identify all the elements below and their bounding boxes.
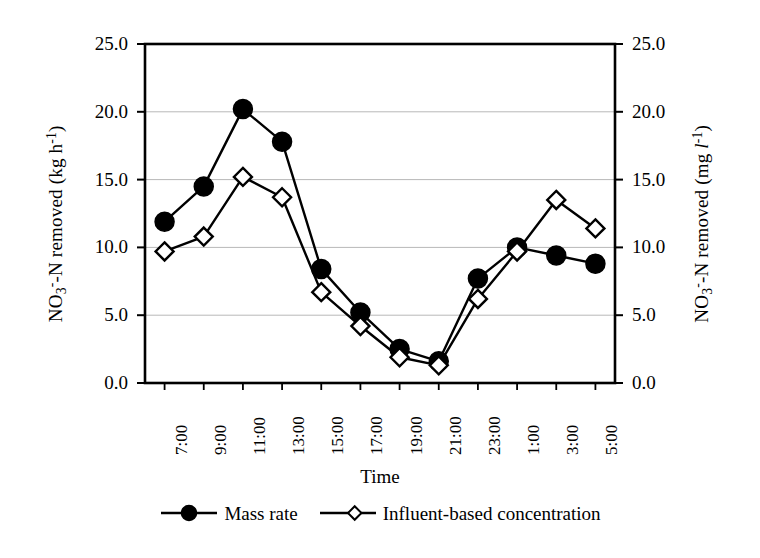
legend-item-mass-rate[interactable]: Mass rate	[159, 502, 297, 524]
x-axis-tick-label: 7:00	[173, 425, 190, 455]
data-point-marker-diamond	[547, 191, 565, 209]
x-axis-tick-label: 3:00	[564, 425, 581, 455]
series-lines	[165, 109, 596, 365]
data-point-marker-circle	[233, 100, 252, 119]
y-axis-left-tick-label: 10.0	[72, 237, 128, 256]
y-axis-right-tick-label: 5.0	[632, 305, 688, 324]
data-point-marker-circle	[547, 246, 566, 265]
x-axis-tick-label: 21:00	[447, 416, 464, 455]
y-axis-left-tick-label: 0.0	[72, 373, 128, 392]
x-axis-tick-label: 9:00	[212, 425, 229, 455]
legend-label-mass-rate: Mass rate	[224, 504, 297, 523]
x-axis-tick-label: 15:00	[329, 416, 346, 455]
filled-circle-icon	[159, 502, 219, 524]
y-axis-right-tick-label: 25.0	[632, 34, 688, 53]
data-point-marker-circle	[586, 254, 605, 273]
x-axis-tick-label: 17:00	[368, 416, 385, 455]
x-axis-tick-label: 11:00	[251, 417, 268, 455]
x-axis-tick-label: 13:00	[290, 416, 307, 455]
data-point-marker-circle	[312, 260, 331, 279]
data-point-marker-circle	[273, 132, 292, 151]
chart-legend: Mass rate Influent-based concentration	[0, 502, 760, 524]
open-diamond-icon	[318, 502, 378, 524]
legend-label-influent-based-concentration: Influent-based concentration	[383, 504, 601, 523]
data-point-marker-circle	[155, 212, 174, 231]
legend-item-influent-based-concentration[interactable]: Influent-based concentration	[318, 502, 601, 524]
data-point-marker-circle	[468, 269, 487, 288]
x-axis-title: Time	[0, 466, 760, 488]
x-axis-tick-label: 19:00	[408, 416, 425, 455]
series-line-influent-based-concentration	[165, 177, 596, 365]
y-axis-left-tick-label: 15.0	[72, 170, 128, 189]
x-axis-tick-label: 1:00	[525, 425, 542, 455]
data-point-marker-diamond	[586, 219, 604, 237]
data-point-marker-diamond	[156, 242, 174, 260]
data-point-marker-diamond	[234, 168, 252, 186]
data-point-marker-diamond	[273, 188, 291, 206]
y-axis-right-tick-label: 10.0	[632, 237, 688, 256]
y-axis-left-tick-label: 5.0	[72, 305, 128, 324]
y-axis-right-tick-label: 20.0	[632, 102, 688, 121]
x-axis-tick-label: 23:00	[486, 416, 503, 455]
x-axis-tick-label: 5:00	[603, 425, 620, 455]
series-markers	[155, 100, 605, 375]
data-point-marker-circle	[194, 177, 213, 196]
y-axis-right-tick-label: 0.0	[632, 373, 688, 392]
chart-figure: NO3--N removed (kg h-1) NO3--N removed (…	[0, 0, 760, 558]
data-point-marker-diamond	[195, 228, 213, 246]
y-axis-right-tick-label: 15.0	[632, 170, 688, 189]
y-axis-left-tick-label: 20.0	[72, 102, 128, 121]
y-axis-left-tick-label: 25.0	[72, 34, 128, 53]
